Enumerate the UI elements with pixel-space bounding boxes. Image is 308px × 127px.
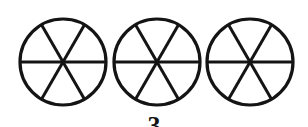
figure-container: 3 bbox=[0, 0, 308, 127]
circle-group-1 bbox=[20, 19, 106, 105]
circle-group-3 bbox=[207, 19, 293, 105]
circles-diagram bbox=[0, 0, 308, 127]
circle-group-2 bbox=[114, 19, 200, 105]
